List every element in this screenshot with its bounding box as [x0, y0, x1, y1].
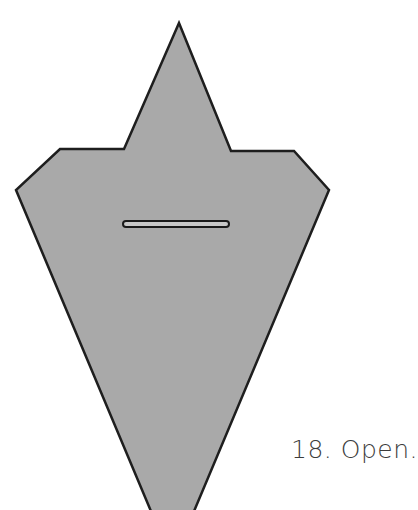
step-label: 18. Open.: [291, 437, 418, 462]
slot-opening: [123, 221, 229, 227]
folded-paper-shape: [16, 23, 329, 510]
